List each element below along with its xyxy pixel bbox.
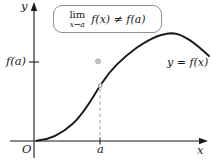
lim-subscript: x→a [70,21,85,29]
lim-word: lim [69,10,85,20]
curve-label: y = f(x) [167,57,208,68]
fa-tick-label: f(a) [6,56,26,68]
curve-hole-icon [98,84,102,88]
fa-point-dot [95,59,100,64]
function-curve-left [37,88,99,141]
y-axis-label: y [21,1,28,13]
a-tick-label: a [97,144,104,156]
formula-box: lim x→a f(x) ≠ f(a) [53,5,162,33]
x-axis-label: x [197,145,204,157]
y-axis-arrow-icon [31,2,37,11]
origin-label: O [22,144,31,156]
limit-operator: lim x→a [69,10,85,29]
formula-expression: f(x) ≠ f(a) [91,14,145,25]
limit-discontinuity-figure: lim x→a f(x) ≠ f(a) y x O a f(a) y = f(x… [0,0,213,163]
